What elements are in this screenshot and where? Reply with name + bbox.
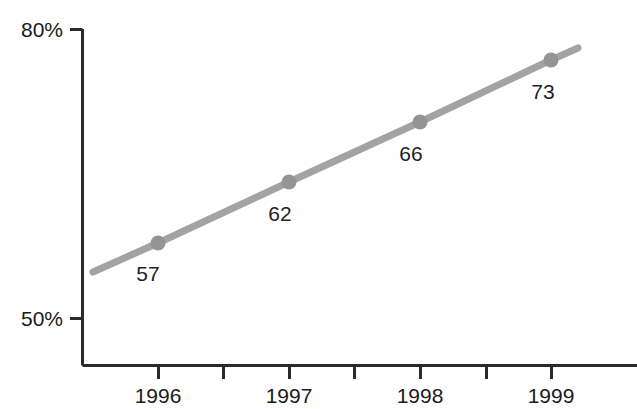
y-axis-tick-label-80: 80% bbox=[8, 19, 63, 40]
x-axis-tick-label-1998: 1998 bbox=[397, 385, 444, 406]
data-line-series bbox=[93, 48, 578, 272]
data-point-value-label-1998: 66 bbox=[399, 143, 422, 164]
y-axis-tick-label-50: 50% bbox=[8, 308, 63, 329]
data-point-value-label-1999: 73 bbox=[531, 81, 554, 102]
x-axis-tick-label-1996: 1996 bbox=[135, 385, 182, 406]
data-point-value-label-1997: 62 bbox=[268, 203, 291, 224]
data-point-value-label-1996: 57 bbox=[136, 263, 159, 284]
line-chart: 80% 50% 1996 1997 1998 1999 57 62 66 73 bbox=[0, 0, 637, 409]
data-point-marker bbox=[413, 115, 428, 130]
chart-plot-area bbox=[0, 0, 637, 409]
data-point-marker bbox=[151, 236, 166, 251]
x-axis-tick-label-1999: 1999 bbox=[528, 385, 575, 406]
data-point-marker bbox=[544, 53, 559, 68]
data-point-marker bbox=[282, 175, 297, 190]
x-axis-tick-label-1997: 1997 bbox=[266, 385, 313, 406]
